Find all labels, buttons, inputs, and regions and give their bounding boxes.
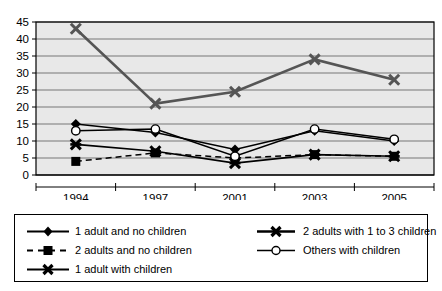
chart-legend: 1 adult and no children 2 adults and no … — [14, 214, 428, 282]
chart-page: 05101520253035404519941997200120032005 1… — [0, 0, 442, 291]
x-axis-tick-label: 2005 — [381, 192, 407, 200]
legend-item-2-adults-no-children: 2 adults and no children — [25, 241, 255, 260]
y-axis-tick-label: 20 — [16, 101, 29, 113]
legend-label: 2 adults and no children — [71, 241, 192, 260]
y-axis-tick-label: 0 — [23, 169, 29, 181]
data-point-marker — [72, 127, 80, 135]
square-dashed-key-icon — [25, 241, 71, 260]
legend-item-1-adult-with-children: 1 adult with children — [25, 260, 255, 279]
legend-label: 2 adults with 1 to 3 children — [299, 222, 436, 241]
legend-item-2-adults-1-to-3-children: 2 adults with 1 to 3 children — [253, 222, 433, 241]
data-point-marker — [310, 125, 318, 133]
y-axis-tick-label: 45 — [16, 16, 29, 28]
legend-column-left: 1 adult and no children 2 adults and no … — [25, 222, 255, 279]
x-axis-tick-label: 2003 — [302, 192, 328, 200]
x-axis-tick-label: 1997 — [143, 192, 169, 200]
chart-area: 05101520253035404519941997200120032005 — [0, 0, 442, 200]
x-axis-tick-label: 2001 — [222, 192, 248, 200]
legend-item-others-with-children: Others with children — [253, 241, 433, 260]
crossbar-solid-key-icon — [253, 222, 299, 241]
legend-label: Others with children — [299, 241, 400, 260]
y-axis-tick-label: 25 — [16, 84, 29, 96]
circle-open-key-icon — [253, 241, 299, 260]
diamond-solid-key-icon — [25, 222, 71, 241]
y-axis-tick-label: 15 — [16, 118, 29, 130]
cross-solid-key-icon — [25, 260, 71, 279]
y-axis-tick-label: 5 — [23, 152, 29, 164]
legend-label: 1 adult with children — [71, 260, 172, 279]
legend-item-1-adult-no-children: 1 adult and no children — [25, 222, 255, 241]
y-axis-tick-label: 40 — [16, 33, 29, 45]
legend-column-right: 2 adults with 1 to 3 children Others wit… — [253, 222, 433, 260]
y-axis-tick-label: 35 — [16, 50, 29, 62]
data-point-marker — [71, 157, 80, 166]
y-axis-tick-label: 10 — [16, 135, 29, 147]
data-point-marker — [390, 135, 398, 143]
data-point-marker — [151, 125, 159, 133]
legend-label: 1 adult and no children — [71, 222, 186, 241]
data-point-marker — [231, 152, 239, 160]
line-chart-svg: 05101520253035404519941997200120032005 — [0, 0, 442, 200]
y-axis-tick-label: 30 — [16, 67, 29, 79]
x-axis-tick-label: 1994 — [63, 192, 89, 200]
